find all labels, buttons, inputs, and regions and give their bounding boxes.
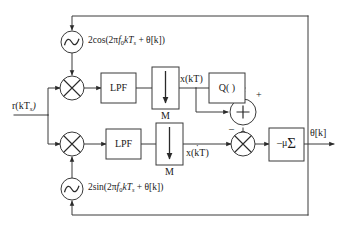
mixer-error (231, 132, 255, 156)
decimator-upper-label: M (152, 111, 179, 121)
lpf-lower-label: LPF (106, 139, 141, 149)
mixer-upper (60, 76, 84, 100)
accumulator-sigma: Σ (287, 135, 296, 151)
cos-oscillator-expression: 2cos(2πf0kTs + θ[k]) (88, 36, 165, 46)
wire-split-upper (48, 88, 60, 115)
cos-expr-mid: kT (124, 35, 134, 45)
cos-oscillator (61, 31, 83, 53)
sin-oscillator (61, 178, 83, 200)
mixer-lower (60, 132, 84, 156)
block-diagram-figure: 2cos(2πf0kTs + θ[k]) 2sin(2πf0kTs + θ[k]… (0, 0, 343, 231)
input-label-base: r(kT (12, 100, 30, 111)
adder-minus-sign: – (229, 124, 234, 134)
sin-oscillator-expression: 2sin(2πf0kTs + θ[k]) (88, 183, 163, 193)
adder-plus-sign: + (256, 90, 262, 100)
output-signal-label: θ[k] (310, 128, 326, 138)
sin-expr-prefix: 2sin(2π (88, 182, 117, 192)
sin-expr-suffix: + θ[k]) (134, 182, 163, 192)
lpf-upper-label: LPF (101, 83, 136, 93)
accumulator-label: –μΣ (269, 136, 304, 151)
decimator-lower-label: M (156, 167, 183, 177)
wire-feedback-top (72, 16, 308, 30)
cos-expr-prefix: 2cos(2π (88, 35, 118, 45)
input-label-close: ) (32, 100, 35, 111)
derivative-dot-icon: ˙ (196, 145, 199, 155)
upper-branch-signal-label: x(kT) (180, 74, 203, 84)
x-dot-wrapper: ˙x(kT) (186, 148, 209, 158)
sin-expr-mid: kT (122, 182, 132, 192)
quantizer-label: Q( ) (209, 83, 245, 93)
cos-expr-suffix: + θ[k]) (136, 35, 165, 45)
wire-feedback-bottom (72, 201, 308, 215)
input-signal-label: r(kTs) (12, 101, 36, 113)
wire-split-lower (48, 115, 60, 144)
accumulator-mu: –μ (277, 137, 287, 148)
lower-branch-signal-label: ˙x(kT) (186, 148, 209, 158)
